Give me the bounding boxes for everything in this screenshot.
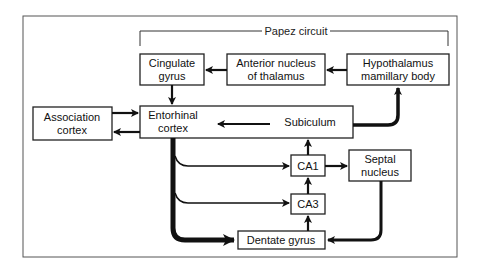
anterior-line1: Anterior nucleus (236, 57, 316, 69)
entorhinal-line1: Entorhinal (148, 109, 198, 121)
node-ca1: CA1 (291, 155, 325, 176)
cingulate-line1: Cingulate (149, 57, 195, 69)
node-dentate-gyrus: Dentate gyrus (238, 231, 325, 249)
arrow-entorhinal-to-ca3 (175, 193, 289, 203)
papez-bracket: Papez circuit (140, 25, 448, 46)
subiculum-label: Subiculum (284, 116, 335, 128)
arrow-entorhinal-to-dentate (173, 138, 234, 240)
papez-circuit-label: Papez circuit (265, 25, 328, 37)
node-hypothalamus-mamillary-body: Hypothalamus mamillary body (347, 54, 449, 85)
septal-line1: Septal (364, 153, 395, 165)
papez-circuit-diagram: Papez circuit Cingulate gyrus Anterior n… (0, 0, 479, 271)
node-anterior-nucleus-thalamus: Anterior nucleus of thalamus (227, 54, 325, 85)
hypothalamus-line1: Hypothalamus (363, 57, 434, 69)
arrow-entorhinal-to-ca1 (175, 156, 289, 166)
ca3-label: CA3 (297, 198, 318, 210)
arrow-subiculum-to-hypothalamus (353, 88, 398, 125)
arrow-septal-to-dentate (328, 181, 381, 240)
node-ca3: CA3 (291, 194, 325, 214)
anterior-line2: of thalamus (248, 70, 305, 82)
hypothalamus-line2: mamillary body (361, 70, 435, 82)
septal-line2: nucleus (361, 166, 399, 178)
cingulate-line2: gyrus (159, 70, 186, 82)
dentate-label: Dentate gyrus (247, 234, 316, 246)
node-septal-nucleus: Septal nucleus (349, 150, 411, 181)
association-line1: Association (44, 111, 100, 123)
node-entorhinal-subiculum: Entorhinal cortex Subiculum (140, 106, 353, 138)
entorhinal-line2: cortex (158, 122, 188, 134)
node-association-cortex: Association cortex (33, 107, 112, 140)
ca1-label: CA1 (297, 160, 318, 172)
node-cingulate-gyrus: Cingulate gyrus (140, 54, 204, 85)
association-line2: cortex (57, 124, 87, 136)
